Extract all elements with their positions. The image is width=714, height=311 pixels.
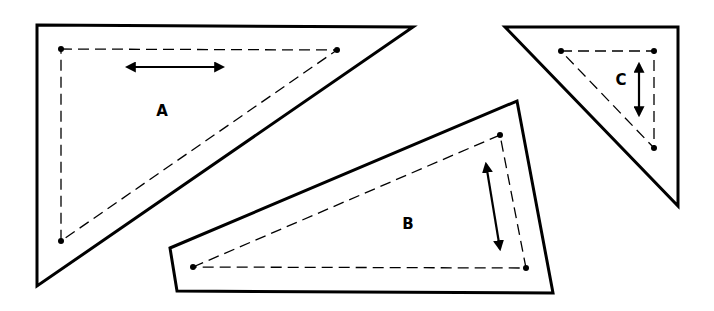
- shape-label: B: [402, 215, 413, 233]
- vertex-dot: [651, 145, 657, 151]
- diagram-canvas: ABC: [0, 0, 714, 311]
- shape-a: A: [37, 25, 413, 286]
- shapes-diagram: ABC: [0, 0, 714, 311]
- vertex-dot: [497, 132, 503, 138]
- inner-dashed-outline: [193, 135, 526, 268]
- vertex-dot: [651, 48, 657, 54]
- vertex-dot: [58, 46, 64, 52]
- shape-label: A: [156, 102, 168, 120]
- vertex-dot: [334, 47, 340, 53]
- double-arrow-icon: [486, 164, 500, 249]
- vertex-dot: [558, 48, 564, 54]
- vertex-dot: [190, 264, 196, 270]
- outer-outline: [170, 101, 553, 293]
- shape-b: B: [170, 101, 553, 293]
- inner-dashed-outline: [61, 49, 337, 241]
- vertex-dot: [58, 238, 64, 244]
- vertex-dot: [523, 265, 529, 271]
- shape-label: C: [615, 71, 626, 89]
- outer-outline: [37, 25, 413, 286]
